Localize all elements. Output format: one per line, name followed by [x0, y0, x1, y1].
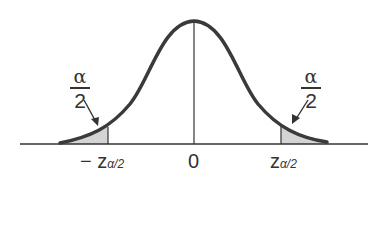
two-denominator: 2	[299, 90, 323, 112]
pos-z-text: z	[270, 150, 280, 172]
neg-z-critical-label: − zα/2	[80, 150, 124, 173]
left-arrow-head	[91, 117, 99, 126]
two-denominator: 2	[68, 90, 92, 112]
left-alpha-half-label: α 2	[68, 66, 92, 112]
pos-z-critical-label: zα/2	[270, 150, 297, 173]
neg-z-text: − z	[80, 150, 107, 172]
zero-label: 0	[188, 150, 199, 173]
right-alpha-half-label: α 2	[299, 66, 323, 112]
subscript-text: α/2	[280, 157, 297, 171]
subscript-text: α/2	[107, 157, 124, 171]
alpha-symbol: α	[68, 66, 92, 86]
alpha-symbol: α	[299, 66, 323, 86]
